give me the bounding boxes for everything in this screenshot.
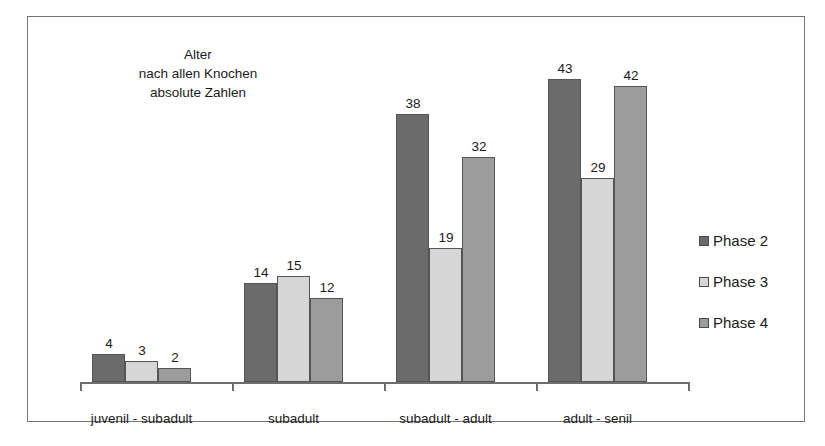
chart-legend: Phase 2Phase 3Phase 4: [699, 220, 809, 343]
legend-swatch-icon: [699, 318, 709, 328]
category-label: adult - senil: [523, 411, 673, 426]
legend-item[interactable]: Phase 3: [699, 261, 809, 302]
axis-tick: [688, 382, 690, 391]
axis-tick: [384, 382, 386, 391]
category-label: juvenil - subadult: [67, 411, 217, 426]
plot-area: 432141512381932432942 juvenil - subadult…: [80, 37, 689, 384]
legend-swatch-icon: [699, 236, 709, 246]
bar[interactable]: [462, 157, 495, 382]
bar[interactable]: [429, 248, 462, 382]
bar-value-label: 32: [459, 139, 499, 154]
bar[interactable]: [158, 368, 191, 382]
bar[interactable]: [244, 283, 277, 382]
category-label: subadult - adult: [371, 411, 521, 426]
bar-value-label: 15: [274, 258, 314, 273]
legend-label: Phase 2: [713, 232, 768, 249]
bar-value-label: 29: [578, 160, 618, 175]
bar[interactable]: [310, 298, 343, 382]
bar-value-label: 42: [611, 68, 651, 83]
axis-tick: [536, 382, 538, 391]
bar[interactable]: [614, 86, 647, 382]
bar-value-label: 43: [545, 61, 585, 76]
chart-frame: Alter nach allen Knochen absolute Zahlen…: [27, 16, 805, 422]
bar-value-label: 12: [307, 280, 347, 295]
legend-label: Phase 4: [713, 314, 768, 331]
bar-value-label: 19: [426, 230, 466, 245]
legend-item[interactable]: Phase 4: [699, 302, 809, 343]
legend-item[interactable]: Phase 2: [699, 220, 809, 261]
bar[interactable]: [548, 79, 581, 382]
axis-tick: [80, 382, 82, 391]
legend-swatch-icon: [699, 277, 709, 287]
bar[interactable]: [396, 114, 429, 382]
bar-value-label: 38: [393, 96, 433, 111]
bar-value-label: 2: [155, 350, 195, 365]
category-label: subadult: [219, 411, 369, 426]
legend-label: Phase 3: [713, 273, 768, 290]
bar[interactable]: [581, 178, 614, 382]
bar[interactable]: [92, 354, 125, 382]
bar[interactable]: [277, 276, 310, 382]
axis-tick: [232, 382, 234, 391]
bar[interactable]: [125, 361, 158, 382]
